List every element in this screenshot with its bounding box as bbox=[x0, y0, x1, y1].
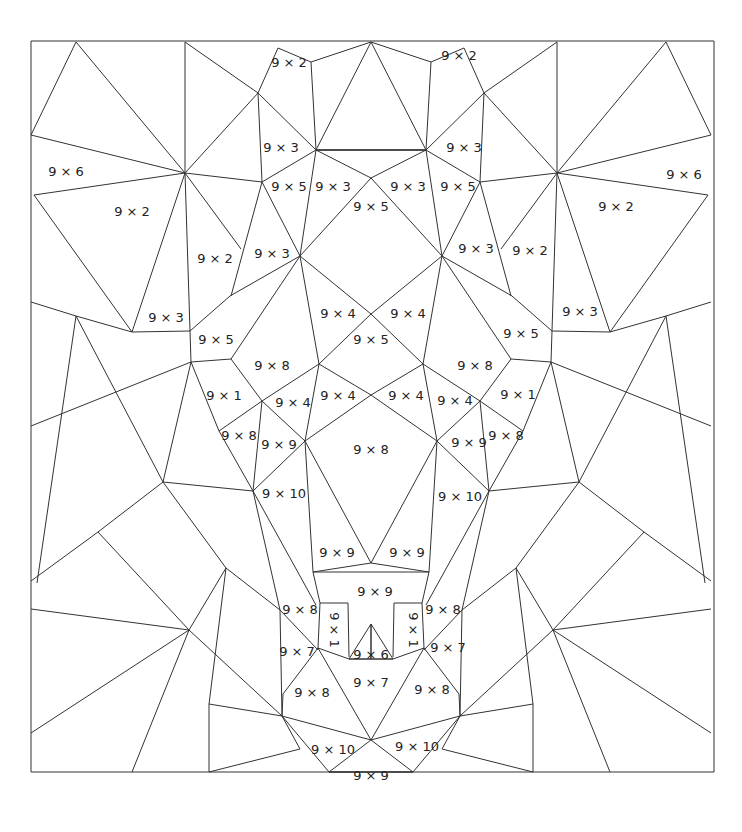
region-edge bbox=[348, 603, 349, 657]
region-edge bbox=[300, 256, 319, 364]
region-edge bbox=[371, 42, 426, 150]
region-edge bbox=[426, 491, 489, 605]
region-label-right-2b: 9 × 2 bbox=[598, 199, 634, 214]
region-edge bbox=[185, 42, 258, 93]
region-edge bbox=[553, 630, 711, 733]
region-edge bbox=[31, 362, 191, 426]
region-label-right-1: 9 × 1 bbox=[500, 387, 536, 402]
region-edges bbox=[31, 42, 711, 772]
region-edge bbox=[280, 610, 282, 716]
region-edge bbox=[219, 401, 262, 431]
region-edge bbox=[393, 648, 424, 659]
region-edge bbox=[132, 331, 190, 332]
region-edge bbox=[666, 42, 711, 135]
region-label-right-3d: 9 × 3 bbox=[562, 304, 598, 319]
region-edge bbox=[262, 150, 316, 182]
region-edge bbox=[423, 364, 437, 441]
region-edge bbox=[610, 316, 666, 332]
region-label-right-8d: 9 × 8 bbox=[414, 682, 450, 697]
region-edge bbox=[189, 630, 282, 716]
region-edge bbox=[480, 401, 523, 431]
region-edge bbox=[316, 42, 371, 150]
region-edge bbox=[185, 173, 190, 331]
region-edge bbox=[132, 630, 189, 772]
region-edge bbox=[313, 563, 371, 572]
region-label-bottom-9: 9 × 9 bbox=[353, 768, 389, 783]
region-edge bbox=[163, 362, 191, 482]
region-edge bbox=[76, 42, 185, 173]
region-edge bbox=[460, 610, 462, 716]
region-edge bbox=[98, 482, 163, 532]
region-label-center-8: 9 × 8 bbox=[353, 442, 389, 457]
region-label-top-right-a: 9 × 2 bbox=[441, 48, 477, 63]
region-edge bbox=[31, 302, 76, 316]
region-edge bbox=[442, 749, 533, 772]
region-label-left-8c: 9 × 8 bbox=[282, 602, 318, 617]
region-edge bbox=[501, 173, 557, 249]
region-label-left-3b: 9 × 3 bbox=[315, 179, 351, 194]
region-edge bbox=[480, 173, 557, 182]
region-edge bbox=[305, 441, 313, 572]
region-label-right-10a: 9 × 10 bbox=[438, 489, 482, 504]
region-label-center-6: 9 × 6 bbox=[353, 647, 389, 662]
region-edge bbox=[76, 316, 163, 482]
region-edge bbox=[552, 173, 557, 331]
region-edge bbox=[371, 150, 426, 178]
region-edge bbox=[484, 42, 557, 93]
region-edge bbox=[442, 716, 460, 749]
puzzle-canvas: 9 × 29 × 29 × 39 × 39 × 69 × 69 × 59 × 3… bbox=[0, 0, 742, 832]
region-label-left-3c: 9 × 3 bbox=[254, 246, 290, 261]
region-edge bbox=[666, 302, 711, 316]
region-label-left-3d: 9 × 3 bbox=[148, 310, 184, 325]
region-edge bbox=[422, 603, 424, 648]
region-edge bbox=[579, 316, 666, 482]
region-labels: 9 × 29 × 29 × 39 × 39 × 69 × 69 × 59 × 3… bbox=[48, 48, 702, 783]
region-edge bbox=[371, 563, 429, 572]
region-edge bbox=[31, 609, 189, 630]
region-label-right-3c: 9 × 3 bbox=[458, 241, 494, 256]
region-label-left-8b: 9 × 8 bbox=[221, 428, 257, 443]
region-edge bbox=[480, 182, 511, 296]
region-edge bbox=[258, 93, 262, 182]
region-edge bbox=[480, 93, 484, 182]
region-label-right-fang-1: 9 × 1 bbox=[406, 612, 421, 648]
region-edge bbox=[553, 609, 711, 630]
region-label-left-10b: 9 × 10 bbox=[311, 742, 355, 757]
region-edge bbox=[253, 491, 316, 605]
region-edge bbox=[190, 331, 191, 362]
region-edge bbox=[163, 482, 226, 568]
region-edge bbox=[579, 482, 644, 532]
region-label-right-9a: 9 × 9 bbox=[451, 435, 487, 450]
region-edge bbox=[666, 316, 705, 583]
region-label-left-4c: 9 × 4 bbox=[320, 388, 356, 403]
region-label-right-4a: 9 × 4 bbox=[390, 306, 426, 321]
region-edge bbox=[426, 62, 431, 150]
region-label-left-4b: 9 × 4 bbox=[275, 395, 311, 410]
region-edge bbox=[282, 716, 300, 749]
region-edge bbox=[185, 93, 258, 173]
region-label-left-5a: 9 × 5 bbox=[271, 179, 307, 194]
region-edge bbox=[191, 359, 231, 362]
region-label-mouth-9: 9 × 9 bbox=[357, 584, 393, 599]
region-label-left-1: 9 × 1 bbox=[206, 388, 242, 403]
region-label-right-8c: 9 × 8 bbox=[425, 602, 461, 617]
region-label-left-8a: 9 × 8 bbox=[254, 358, 290, 373]
region-edge bbox=[132, 173, 185, 332]
region-label-center-5a: 9 × 5 bbox=[353, 199, 389, 214]
region-edge bbox=[610, 195, 708, 332]
region-edge bbox=[551, 331, 552, 362]
region-label-center-7: 9 × 7 bbox=[353, 675, 389, 690]
region-label-left-upper-3: 9 × 3 bbox=[263, 140, 299, 155]
region-edge bbox=[460, 630, 553, 716]
region-edge bbox=[231, 256, 300, 359]
region-edge bbox=[426, 150, 442, 256]
region-edge bbox=[459, 694, 460, 716]
region-edge bbox=[484, 93, 557, 173]
region-edge bbox=[552, 331, 610, 332]
region-edge bbox=[516, 568, 533, 704]
region-edge bbox=[551, 362, 579, 482]
region-label-top-left-a: 9 × 2 bbox=[271, 55, 307, 70]
region-edge bbox=[429, 441, 437, 572]
region-edge bbox=[31, 630, 189, 733]
region-edge bbox=[393, 603, 394, 657]
